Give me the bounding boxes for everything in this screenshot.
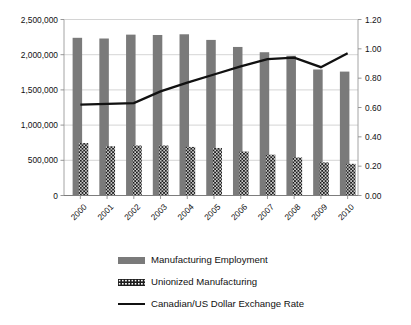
bar-unionized-manufacturing (266, 155, 276, 196)
y-axis-left-tick-label: 2,500,000 (21, 15, 59, 25)
bar-unionized-manufacturing (212, 148, 222, 196)
bar-hatch-icon (118, 279, 145, 286)
bar-solid-icon (118, 257, 145, 264)
y-axis-left-tick-label: 2,000,000 (21, 50, 59, 60)
legend-item-exchange-rate: Canadian/US Dollar Exchange Rate (118, 294, 304, 314)
legend-item-manufacturing-employment: Manufacturing Employment (118, 250, 268, 270)
bar-unionized-manufacturing (293, 157, 303, 195)
x-axis-tick-label: 2005 (202, 202, 222, 222)
bar-unionized-manufacturing (132, 146, 142, 196)
y-axis-right-tick-label: 0.40 (365, 132, 382, 142)
y-axis-right-tick-label: 0.00 (365, 191, 382, 201)
x-axis-tick-label: 2002 (122, 202, 142, 222)
y-axis-right-tick-label: 1.00 (365, 44, 382, 54)
x-axis-ticks: 2000200120022003200420052006200720082009… (69, 196, 357, 223)
bar-unionized-manufacturing (79, 143, 89, 195)
x-axis-tick-label: 2000 (69, 202, 89, 222)
x-axis-tick-label: 2010 (336, 202, 356, 222)
y-axis-left-tick-label: 0 (53, 191, 58, 201)
y-axis-right-ticks: 0.000.200.400.600.801.001.20 (358, 15, 382, 201)
y-axis-right-tick-label: 0.80 (365, 73, 382, 83)
y-axis-left-tick-label: 1,500,000 (21, 85, 59, 95)
legend-label: Unionized Manufacturing (151, 277, 257, 287)
legend-label: Canadian/US Dollar Exchange Rate (151, 299, 304, 309)
x-axis-tick-label: 2009 (309, 202, 329, 222)
x-axis-tick-label: 2008 (282, 202, 302, 222)
line-icon (118, 303, 145, 305)
bar-unionized-manufacturing (186, 147, 196, 196)
bar-unionized-manufacturing (239, 152, 249, 196)
y-axis-left-tick-label: 500,000 (28, 155, 59, 165)
y-axis-right-tick-label: 1.20 (365, 15, 382, 25)
plot-area: 0500,0001,000,0001,500,0002,000,0002,500… (0, 0, 411, 250)
legend-item-unionized-manufacturing: Unionized Manufacturing (118, 272, 257, 292)
x-axis-tick-label: 2001 (95, 202, 115, 222)
bar-unionized-manufacturing (159, 146, 169, 196)
x-axis-tick-label: 2003 (149, 202, 169, 222)
legend-label: Manufacturing Employment (151, 255, 268, 265)
bar-unionized-manufacturing (346, 164, 356, 196)
x-axis-tick-label: 2006 (229, 202, 249, 222)
chart-container: 0500,0001,000,0001,500,0002,000,0002,500… (0, 0, 411, 325)
y-axis-left-ticks: 0500,0001,000,0001,500,0002,000,0002,500… (21, 15, 64, 201)
y-axis-right-tick-label: 0.60 (365, 103, 382, 113)
x-axis-tick-label: 2004 (175, 202, 195, 222)
x-axis-tick-label: 2007 (256, 202, 276, 222)
bar-unionized-manufacturing (319, 162, 329, 195)
y-axis-left-tick-label: 1,000,000 (21, 120, 59, 130)
chart-legend: Manufacturing Employment Unionized Manuf… (0, 248, 411, 325)
chart-svg: 0500,0001,000,0001,500,0002,000,0002,500… (0, 0, 411, 250)
bar-unionized-manufacturing (106, 146, 116, 195)
y-axis-right-tick-label: 0.20 (365, 161, 382, 171)
